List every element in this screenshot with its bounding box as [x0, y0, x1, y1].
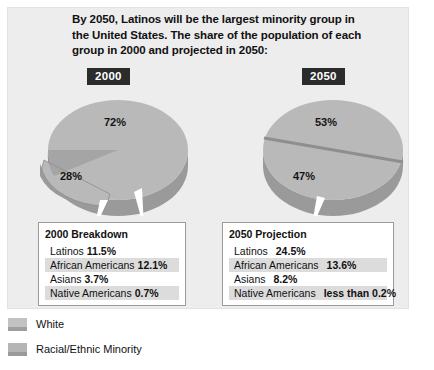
year-label-2000: 2000	[87, 68, 130, 85]
row-value: 11.5%	[87, 245, 116, 257]
pie-chart-2050: 53% 47%	[253, 88, 413, 213]
row-label: African Americans	[234, 259, 319, 271]
pie-chart-2000: 72% 28%	[38, 88, 198, 213]
row-label: Asians	[50, 273, 82, 285]
row-value: 24.5%	[276, 245, 306, 257]
breakdown-row: Native Americans less than 0.2%	[229, 286, 387, 300]
row-label: Latinos	[234, 245, 268, 257]
headline-line-2: the United States. The share of the popu…	[72, 28, 362, 44]
breakdown-row: Asians 8.2%	[229, 272, 387, 286]
row-label: Native Americans	[50, 287, 132, 299]
breakdown-row: Native Americans 0.7%	[45, 286, 179, 300]
breakdown-box-2000: 2000 Breakdown Latinos 11.5% African Ame…	[38, 222, 186, 306]
row-value: 12.1%	[138, 259, 168, 271]
row-label: African Americans	[50, 259, 135, 271]
breakdown-row: African Americans 13.6%	[229, 258, 387, 272]
pie-2000-svg	[38, 88, 198, 216]
breakdown-row: Latinos 24.5%	[229, 244, 387, 258]
row-label: Latinos	[50, 245, 84, 257]
page-title: By 2050, Latinos will be the largest min…	[72, 12, 362, 59]
breakdown-row: Asians 3.7%	[45, 272, 179, 286]
legend-swatch-icon	[8, 343, 27, 356]
infographic-root: By 2050, Latinos will be the largest min…	[0, 0, 434, 370]
pie-2050-svg	[253, 88, 413, 216]
row-value: less than 0.2%	[324, 287, 396, 299]
year-label-2050: 2050	[302, 68, 345, 85]
breakdown-box-2050-title: 2050 Projection	[229, 228, 387, 241]
row-label: Native Americans	[234, 287, 316, 299]
pie-2000-label-minor: 28%	[60, 170, 82, 182]
headline-line-3: group in 2000 and projected in 2050:	[72, 43, 362, 59]
row-value: 8.2%	[273, 273, 297, 285]
breakdown-row: Latinos 11.5%	[45, 244, 179, 258]
breakdown-box-2000-title: 2000 Breakdown	[45, 228, 179, 241]
breakdown-box-2050: 2050 Projection Latinos 24.5% African Am…	[222, 222, 394, 306]
legend-item-minority: Racial/Ethnic Minority	[8, 343, 142, 356]
legend-label: Racial/Ethnic Minority	[36, 343, 142, 356]
row-value: 0.7%	[135, 287, 159, 299]
legend-label: White	[36, 318, 64, 331]
row-label: Asians	[234, 273, 266, 285]
pie-2050-label-minor: 47%	[293, 170, 315, 182]
pie-2050-label-major: 53%	[315, 116, 337, 128]
pie-2000-label-major: 72%	[104, 116, 126, 128]
breakdown-row: African Americans 12.1%	[45, 258, 179, 272]
row-value: 3.7%	[84, 273, 108, 285]
headline-line-1: By 2050, Latinos will be the largest min…	[72, 12, 362, 28]
legend-item-white: White	[8, 318, 64, 331]
row-value: 13.6%	[327, 259, 357, 271]
legend-swatch-icon	[8, 318, 27, 331]
